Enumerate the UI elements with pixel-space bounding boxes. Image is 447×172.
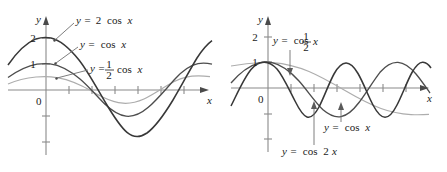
label-cosxr-lhs: y = bbox=[323, 121, 339, 133]
panel-left: y x 0 2 1 y = 2 cos x y = cos x bbox=[0, 0, 223, 172]
right-panel-plot: y x 0 2 1 y = cos 1 2 x y = cos bbox=[223, 0, 447, 172]
curve-2-cos-x bbox=[8, 37, 212, 136]
svg-text:y = cos x: y = cos x bbox=[323, 121, 370, 133]
trig-graphs-figure: y x 0 2 1 y = 2 cos x y = cos x bbox=[0, 0, 447, 172]
label-cos2x-coef: 2 bbox=[323, 145, 329, 157]
left-x-axis-label: x bbox=[206, 94, 212, 106]
label-cos-half-x: y = cos 1 2 x bbox=[272, 30, 318, 53]
label-2cosx-coef: 2 bbox=[96, 14, 102, 26]
label-cos-x-right: y = cos x bbox=[323, 121, 370, 133]
label-2cosx-lhs: y = bbox=[75, 14, 91, 26]
left-y-axis-label: y bbox=[35, 13, 41, 25]
label-cos-x: y = cos x bbox=[79, 38, 126, 50]
left-panel-plot: y x 0 2 1 y = 2 cos x y = cos x bbox=[0, 0, 223, 172]
left-y-tick-1: 1 bbox=[30, 58, 36, 70]
svg-text:y = 2 cos: y = 2 cos x bbox=[75, 14, 132, 26]
curve-cos-x-right bbox=[231, 62, 430, 117]
label-half-cos-x: y = 1 2 cos x bbox=[89, 58, 142, 81]
right-x-axis-label: x bbox=[426, 92, 432, 104]
label-halfcosx-lhs: y = bbox=[89, 62, 105, 74]
label-cos-2x: y = cos 2 x bbox=[281, 145, 337, 157]
left-y-tick-2: 2 bbox=[30, 32, 36, 44]
panel-right: y x 0 2 1 y = cos 1 2 x y = cos bbox=[223, 0, 447, 172]
label-2cosx-arg: x bbox=[126, 14, 132, 26]
right-y-axis bbox=[265, 16, 271, 152]
label-halfcosx-fn: cos bbox=[117, 63, 132, 75]
label-cosx-arg: x bbox=[120, 38, 126, 50]
label-coshalfx-denominator: 2 bbox=[303, 41, 309, 53]
left-leader-dots bbox=[53, 39, 57, 79]
curve-cos-2x bbox=[231, 62, 431, 117]
label-cosx-lhs: y = bbox=[79, 38, 95, 50]
right-origin-label: 0 bbox=[258, 93, 264, 105]
left-origin-label: 0 bbox=[36, 95, 42, 107]
label-cosxr-fn: cos bbox=[345, 121, 360, 133]
svg-text:y = cos x: y = cos x bbox=[79, 38, 126, 50]
label-cos2x-fn: cos bbox=[303, 145, 318, 157]
right-y-tick-2: 2 bbox=[252, 31, 258, 43]
label-2-cos-x: y = 2 cos x bbox=[75, 14, 132, 26]
label-coshalfx-lhs: y = bbox=[272, 34, 288, 46]
label-cos2x-arg: x bbox=[331, 145, 337, 157]
label-cos2x-lhs: y = bbox=[281, 145, 297, 157]
label-cosx-fn: cos bbox=[101, 38, 116, 50]
curve-cos-half-x bbox=[231, 62, 429, 114]
label-halfcosx-arg: x bbox=[136, 63, 142, 75]
svg-text:cos x: cos x bbox=[117, 63, 142, 75]
label-cosxr-arg: x bbox=[364, 121, 370, 133]
svg-text:y =: y = bbox=[89, 62, 105, 74]
svg-text:y = cos 2: y = cos 2 x bbox=[281, 145, 337, 157]
right-y-tick-1: 1 bbox=[252, 56, 258, 68]
label-halfcosx-denominator: 2 bbox=[106, 69, 112, 81]
label-2cosx-fn: cos bbox=[107, 14, 122, 26]
right-y-axis-label: y bbox=[257, 13, 263, 25]
right-x-axis bbox=[231, 85, 429, 91]
label-coshalfx-arg: x bbox=[312, 35, 318, 47]
